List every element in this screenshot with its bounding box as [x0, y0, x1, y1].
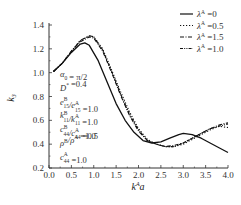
- annotation-text: cA44 =1.0: [60, 151, 87, 165]
- annotation-box: α0 = π/2D* =0.4eB15/eA15 =1.0kB11/kA11 =…: [59, 69, 98, 165]
- legend: λA =0λA =0.5λA =1.5λA =1.0: [180, 9, 224, 54]
- x-axis-title: kAa: [131, 181, 144, 192]
- x-tick-label: 4.0: [222, 170, 234, 180]
- y-tick-label: 1.0: [33, 68, 45, 78]
- legend-label: λA =1.0: [196, 43, 224, 54]
- x-tick-label: 0.0: [43, 170, 55, 180]
- x-tick-label: 3.0: [178, 170, 190, 180]
- y-tick-label: 0.4: [33, 139, 45, 149]
- y-axis-title: k3: [5, 94, 17, 101]
- legend-label: λA =1.5: [196, 32, 224, 43]
- y-tick-label: 1.2: [33, 44, 44, 54]
- y-tick-label: 0.8: [33, 92, 45, 102]
- x-tick-label: 2.0: [133, 170, 145, 180]
- y-tick-label: 1.4: [33, 20, 45, 30]
- legend-label: λA =0: [196, 9, 217, 20]
- x-tick-label: 0.5: [66, 170, 78, 180]
- series-line-1: [54, 36, 229, 147]
- annotation-text: D* =0.4: [59, 79, 87, 93]
- x-tick-label: 1.5: [111, 170, 123, 180]
- series-line-3: [54, 36, 229, 147]
- legend-label: λA =0.5: [196, 20, 224, 31]
- line-chart: 0.00.51.01.52.02.53.03.54.00.20.40.60.81…: [0, 0, 241, 205]
- y-tick-label: 0.2: [33, 163, 44, 173]
- y-tick-label: 0.6: [33, 115, 45, 125]
- x-tick-label: 1.0: [88, 170, 100, 180]
- x-tick-label: 3.5: [200, 170, 212, 180]
- x-tick-label: 2.5: [155, 170, 167, 180]
